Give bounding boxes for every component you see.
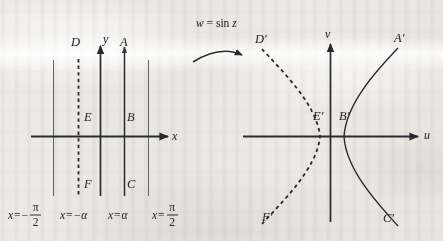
point-label-F: F — [84, 178, 92, 191]
eq4-x: x — [152, 209, 157, 221]
point-label-C: C — [127, 178, 135, 191]
point-label-D: D — [71, 36, 80, 49]
point-label-F-prime: F′ — [262, 211, 272, 224]
eq4-fraction: π 2 — [167, 202, 178, 228]
point-label-E: E — [84, 111, 92, 124]
eq1-fraction: π 2 — [30, 202, 41, 228]
x-axis-label: x — [172, 130, 177, 142]
u-axis-label: u — [424, 129, 430, 141]
mapping-equation-label: w = sin z — [196, 17, 237, 29]
w-plane-group — [243, 44, 418, 226]
eq1-numerator: π — [31, 202, 41, 214]
eq2-x: x — [60, 209, 65, 221]
eq1-x: x — [8, 209, 13, 221]
point-label-B: B — [127, 111, 135, 124]
eq3-equals: = — [114, 209, 121, 221]
eq1-denominator: 2 — [31, 216, 41, 228]
point-label-B-prime: B′ — [339, 110, 349, 123]
map-equals-sign: = — [207, 17, 214, 29]
point-label-A: A — [120, 36, 128, 49]
diagram-canvas — [0, 0, 443, 241]
equation-x-equals-neg-half-pi: x = − π 2 — [8, 202, 42, 228]
eq4-equals: = — [158, 209, 165, 221]
point-label-D-prime: D′ — [255, 33, 267, 46]
eq3-value: α — [122, 209, 128, 221]
eq4-denominator: 2 — [167, 216, 177, 228]
eq2-equals: = — [66, 209, 73, 221]
map-z-symbol: z — [232, 17, 236, 29]
equation-x-equals-neg-alpha: x = −α — [60, 209, 87, 221]
eq4-numerator: π — [167, 202, 177, 214]
eq2-value: −α — [74, 209, 88, 221]
z-plane-group — [31, 46, 168, 197]
equation-x-equals-half-pi: x = π 2 — [152, 202, 179, 228]
eq3-x: x — [108, 209, 113, 221]
point-label-C-prime: C′ — [383, 212, 394, 225]
point-label-E-prime: E′ — [313, 110, 323, 123]
eq1-minus: − — [22, 209, 29, 221]
y-axis-label: y — [103, 33, 108, 45]
v-axis-label: v — [325, 28, 330, 40]
map-w-symbol: w — [196, 17, 204, 29]
mapping-arrow — [193, 51, 242, 62]
eq1-equals: = — [14, 209, 21, 221]
point-label-A-prime: A′ — [394, 32, 404, 45]
equation-x-equals-alpha: x = α — [108, 209, 128, 221]
conformal-map-figure: w = sin z D y A E B F C x x = − π 2 x = … — [0, 0, 443, 241]
map-sin-function: sin — [216, 17, 229, 29]
